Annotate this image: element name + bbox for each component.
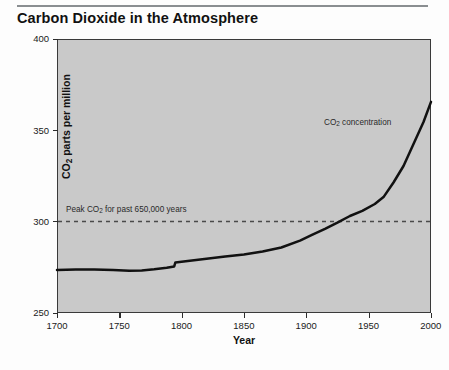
peak-annotation-prefix: Peak CO <box>66 205 99 214</box>
peak-co2-annotation: Peak CO2 for past 650,000 years <box>66 205 187 214</box>
co2-concentration-annotation: CO2 concentration <box>324 118 391 127</box>
peak-annotation-suffix: for past 650,000 years <box>103 205 187 214</box>
conc-annotation-suffix: concentration <box>340 118 391 127</box>
co2-concentration-line <box>57 102 431 271</box>
chart-figure: Carbon Dioxide in the Atmosphere CO2 par… <box>0 0 449 370</box>
conc-annotation-prefix: CO <box>324 118 336 127</box>
chart-canvas <box>0 0 449 370</box>
